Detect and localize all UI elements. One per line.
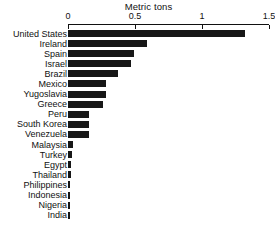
bar-row: Spain xyxy=(0,49,275,59)
bar-row: Peru xyxy=(0,110,275,120)
bar-category-label: Yugoslavia xyxy=(23,89,67,99)
bar-category-label: Mexico xyxy=(38,79,67,89)
bar xyxy=(68,171,71,178)
bar-row: South Korea xyxy=(0,120,275,130)
bar xyxy=(68,40,147,47)
bar xyxy=(68,212,70,219)
bar-row: Venezuela xyxy=(0,130,275,140)
bar-row: Turkey xyxy=(0,150,275,160)
bar-row: Malaysia xyxy=(0,140,275,150)
bar xyxy=(68,192,70,199)
bar-row: United States xyxy=(0,29,275,39)
bar-category-label: Turkey xyxy=(40,150,67,160)
bar-category-label: Egypt xyxy=(44,160,67,170)
bar-category-label: Ireland xyxy=(39,39,67,49)
bar-row: Ireland xyxy=(0,39,275,49)
bar-category-label: India xyxy=(47,210,67,220)
x-axis-line xyxy=(68,24,269,25)
bar xyxy=(68,121,89,128)
bar-category-label: Peru xyxy=(48,109,67,119)
bar xyxy=(68,91,106,98)
bar xyxy=(68,202,70,209)
bar-row: Egypt xyxy=(0,160,275,170)
bar-row: Nigeria xyxy=(0,201,275,211)
bar xyxy=(68,111,89,118)
bar-row: Philippines xyxy=(0,180,275,190)
bar-row: Brazil xyxy=(0,69,275,79)
bar-row: Greece xyxy=(0,100,275,110)
x-axis-tick-label: 1.5 xyxy=(263,11,275,21)
x-axis-tick-labels: 00.511.5 xyxy=(0,11,275,22)
bar-category-label: Greece xyxy=(37,99,67,109)
bar-chart: Metric tons 00.511.5 United StatesIrelan… xyxy=(0,0,275,233)
x-axis-tick-label: 0.5 xyxy=(129,11,142,21)
x-axis-tick-label: 0 xyxy=(65,11,70,21)
x-axis-tick-mark xyxy=(135,25,136,29)
bar xyxy=(68,101,103,108)
bar-category-label: Brazil xyxy=(44,69,67,79)
x-axis-tick-mark xyxy=(202,25,203,29)
bar-category-label: Spain xyxy=(44,49,67,59)
bar xyxy=(68,131,89,138)
bar xyxy=(68,80,106,87)
bar xyxy=(68,181,70,188)
bar-category-label: Venezuela xyxy=(25,129,67,139)
bar-category-label: Israel xyxy=(45,59,67,69)
bar-category-label: Thailand xyxy=(32,170,67,180)
bar-row: Mexico xyxy=(0,79,275,89)
bar-row: Thailand xyxy=(0,170,275,180)
bar-row: Indonesia xyxy=(0,191,275,201)
bar-category-label: Indonesia xyxy=(28,190,67,200)
x-axis-tick-mark xyxy=(68,25,69,29)
bar-category-label: Philippines xyxy=(23,180,67,190)
bar xyxy=(68,141,73,148)
x-axis-tick-mark xyxy=(269,25,270,29)
bar-row: Yugoslavia xyxy=(0,90,275,100)
bar xyxy=(68,50,134,57)
bar xyxy=(68,30,245,37)
plot-area: United StatesIrelandSpainIsraelBrazilMex… xyxy=(0,29,275,229)
bar-row: India xyxy=(0,211,275,221)
bar xyxy=(68,161,71,168)
bar xyxy=(68,70,118,77)
bar-row: Israel xyxy=(0,59,275,69)
bar xyxy=(68,151,72,158)
bar xyxy=(68,60,131,67)
x-axis-tick-label: 1 xyxy=(199,11,204,21)
bar-category-label: South Korea xyxy=(17,119,67,129)
bar-category-label: United States xyxy=(13,29,67,39)
bar-category-label: Malaysia xyxy=(31,140,67,150)
bar-category-label: Nigeria xyxy=(38,200,67,210)
